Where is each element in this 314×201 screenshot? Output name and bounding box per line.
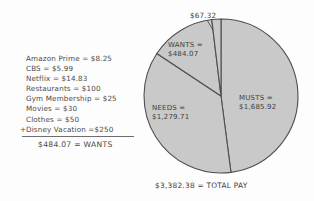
list-item-label: Amazon Prime = $8.25 [26,54,112,63]
slice-label-sliver-value: $67.32 [190,11,216,20]
slice-label-wants-value: $484.07 [168,50,203,59]
wants-subtotal: $484.07 = WANTS [38,140,146,150]
list-item-label: CBS = $5.99 [26,64,73,73]
pie-chart: $67.32 WANTS = $484.07 NEEDS = $1,279.71… [143,8,314,201]
list-item-label: Movies = $30 [26,104,77,113]
slice-label-sliver: $67.32 [190,11,216,20]
slice-label-musts: MUSTS = $1,685.92 [239,94,276,112]
slice-label-needs-value: $1,279.71 [152,113,189,122]
slice-label-musts-value: $1,685.92 [239,103,276,112]
list-item-label: Restaurants = $100 [26,84,101,93]
budget-pie-chart-image: Amazon Prime = $8.25 CBS = $5.99 Netflix… [0,0,314,201]
expense-list: Amazon Prime = $8.25 CBS = $5.99 Netflix… [26,54,146,150]
slice-label-musts-name: MUSTS = [239,94,276,103]
list-item: Netflix = $14.83 [26,74,146,84]
sum-divider [22,136,134,137]
list-item-label: Disney Vacation =$250 [26,125,113,134]
list-item: CBS = $5.99 [26,64,146,74]
list-item: Movies = $30 [26,104,146,114]
pie-chart-svg [143,8,314,183]
list-item: Restaurants = $100 [26,84,146,94]
list-item: Gym Membership = $25 [26,94,146,104]
list-item: Clothes = $50 [26,115,146,125]
slice-label-wants-name: WANTS = [168,41,203,50]
slice-label-needs-name: NEEDS = [152,104,189,113]
slice-label-needs: NEEDS = $1,279.71 [152,104,189,122]
slice-label-wants: WANTS = $484.07 [168,41,203,59]
total-pay-label: $3,382.38 = TOTAL PAY [155,181,248,190]
list-item-label: Gym Membership = $25 [26,94,117,103]
list-item: Amazon Prime = $8.25 [26,54,146,64]
list-item: +Disney Vacation =$250 [26,125,146,135]
list-item-label: Clothes = $50 [26,115,79,124]
list-item-label: Netflix = $14.83 [26,74,88,83]
